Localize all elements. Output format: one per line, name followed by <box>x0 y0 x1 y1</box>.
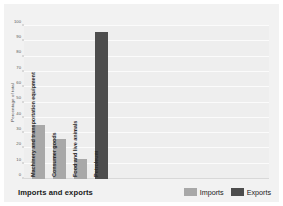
bar-category-label: Machinery and transportation equipment <box>30 72 36 177</box>
plot-area: 0102030405060708090100 Machinery and tra… <box>24 26 269 179</box>
legend-swatch <box>184 188 197 196</box>
chart-title: Imports and exports <box>18 188 93 197</box>
legend-label: Imports <box>200 188 224 197</box>
bar-category-label: Petroleum <box>93 151 99 177</box>
legend-item[interactable]: Exports <box>231 188 271 197</box>
y-axis-tick-label: 60 <box>16 81 21 85</box>
bar-label-holder: Petroleum <box>95 26 108 179</box>
legend-item[interactable]: Imports <box>184 188 224 197</box>
plot-wrap: 0102030405060708090100 Machinery and tra… <box>24 26 269 179</box>
y-axis-tick-label: 80 <box>16 50 21 54</box>
legend-label: Exports <box>247 188 271 197</box>
y-axis-tick-label: 0 <box>19 173 21 177</box>
y-axis-tick-label: 30 <box>16 127 21 131</box>
chart-screenshot: Percentage of total 01020304050607080901… <box>0 0 283 206</box>
bars-layer: Machinery and transportation equipmentCo… <box>24 26 269 179</box>
y-axis-tick-label: 50 <box>16 96 21 100</box>
legend: ImportsExports <box>184 188 271 197</box>
legend-swatch <box>231 188 244 196</box>
bar-label-holder: Machinery and transportation equipment <box>32 26 45 179</box>
bar-label-holder: Food and live animals <box>74 26 87 179</box>
bar-category-label: Food and live animals <box>72 121 78 177</box>
bar-label-holder: Consumer goods <box>53 26 66 179</box>
y-axis-tick-label: 90 <box>16 35 21 39</box>
y-axis-tick-label: 20 <box>16 142 21 146</box>
y-axis-title-label: Percentage of total <box>10 83 15 122</box>
bar-category-label: Consumer goods <box>51 132 57 177</box>
y-axis-tick-label: 40 <box>16 112 21 116</box>
chart-footer: Imports and exports ImportsExports <box>4 182 279 202</box>
y-axis-tick-label: 100 <box>14 20 21 24</box>
y-axis-tick-label: 10 <box>16 157 21 161</box>
y-axis-tick-label: 70 <box>16 66 21 70</box>
